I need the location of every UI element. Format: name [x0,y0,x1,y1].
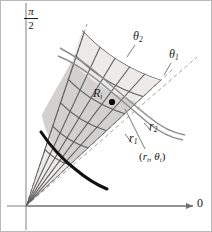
theta2-label: θ2 [133,30,143,42]
leader-theta2 [127,45,135,57]
r1-label: r1 [129,132,137,144]
sample-theta-subscript: i [160,156,162,163]
polar-axis-label: 0 [197,197,203,209]
figure-canvas [1,1,212,232]
r1-subscript: 1 [134,137,138,146]
region-label: Ri [93,87,102,99]
r2-symbol: r [149,119,154,133]
paren-close: ) [162,150,166,162]
r2-subscript: 2 [154,125,158,134]
polar-region-figure: π 2 θ2 θ1 r2 r1 Ri (ri, θi) 0 [0,0,212,232]
pi-denominator: 2 [21,20,41,31]
theta2-subscript: 2 [139,35,143,44]
r1-symbol: r [129,131,134,145]
theta1-subscript: 1 [175,53,179,62]
r2-label: r2 [149,120,157,132]
sample-point-marker [109,99,115,105]
theta1-label: θ1 [169,48,179,60]
sample-point-label: (ri, θi) [139,151,165,162]
leader-theta1 [164,63,171,75]
vertical-axis-label: π 2 [21,6,41,31]
pi-numerator: π [21,6,41,18]
sample-theta-symbol: θ [154,150,159,162]
sample-r-subscript: i [147,156,149,163]
